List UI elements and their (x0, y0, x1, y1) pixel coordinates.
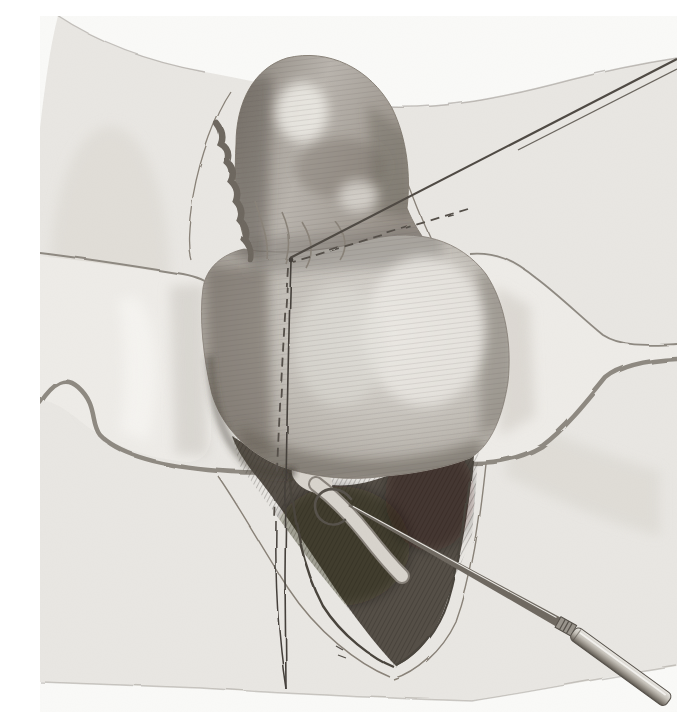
surgical-illustration (40, 16, 677, 712)
needle-tip-knot (289, 258, 294, 263)
retractor-junction-knot (286, 467, 296, 477)
illustration-canvas (40, 16, 677, 712)
